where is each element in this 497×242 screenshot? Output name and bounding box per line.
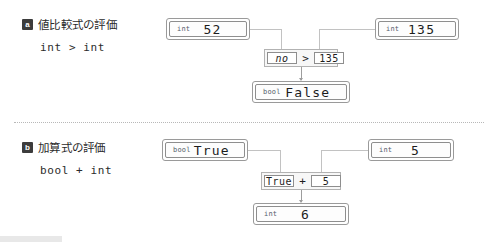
connector-a-right-vertical — [319, 29, 320, 49]
section-b-expression-left: True — [264, 175, 294, 187]
section-b-title: 加算式の評価 — [38, 139, 106, 155]
section-b-operand-right-type: int — [379, 146, 392, 154]
section-b-expression-right: 5 — [311, 175, 341, 187]
section-b-label: b 加算式の評価 bool + int — [22, 139, 112, 177]
section-b-expression-operator: + — [296, 175, 309, 187]
section-b-heading: b 加算式の評価 — [22, 139, 112, 155]
section-b-result-type: int — [264, 210, 277, 218]
section-a-operand-left: int 52 — [166, 18, 250, 40]
section-a-result-value: False — [281, 85, 339, 100]
section-b-badge: b — [22, 142, 33, 153]
section-a-result: bool False — [252, 81, 350, 103]
connector-a-right-horizontal — [319, 29, 375, 30]
diagram-canvas: a 値比較式の評価 int > int int 52 int 135 no > … — [0, 0, 497, 242]
connector-b-right-vertical — [321, 150, 322, 172]
connector-b-left-vertical — [280, 150, 281, 172]
connector-b-right-horizontal — [321, 150, 368, 151]
section-b-operand-right-inner: int 5 — [371, 142, 451, 158]
section-a-operand-right-type: int — [386, 25, 399, 33]
section-b-operand-left-type: bool — [173, 146, 191, 154]
section-a-title: 値比較式の評価 — [38, 16, 117, 32]
section-a-result-type: bool — [263, 88, 281, 96]
section-divider — [14, 122, 484, 123]
section-b-operand-left: bool True — [162, 139, 248, 161]
section-a-expression: no > 135 — [264, 49, 338, 67]
footer-bar — [0, 236, 62, 242]
section-b-code: bool + int — [40, 164, 112, 177]
connector-a-left-vertical — [281, 29, 282, 49]
section-b-operand-left-inner: bool True — [165, 142, 245, 158]
section-b-expression: True + 5 — [261, 172, 341, 190]
section-a-expression-left: no — [267, 52, 297, 64]
section-b-result: int 6 — [253, 203, 349, 225]
section-a-heading: a 値比較式の評価 — [22, 16, 117, 32]
connector-b-left-horizontal — [248, 150, 280, 151]
section-a-operand-left-type: int — [177, 25, 190, 33]
section-a-operand-right: int 135 — [375, 18, 459, 40]
section-b-result-inner: int 6 — [256, 206, 346, 222]
section-b-operand-right-value: 5 — [392, 143, 443, 158]
section-a-result-inner: bool False — [255, 84, 347, 100]
section-a-expression-right: 135 — [314, 52, 344, 64]
section-a-operand-right-inner: int 135 — [378, 21, 456, 37]
section-a-expression-operator: > — [299, 52, 312, 64]
section-a-code: int > int — [40, 41, 117, 54]
section-b-result-value: 6 — [277, 207, 338, 222]
section-a-operand-left-inner: int 52 — [169, 21, 247, 37]
section-b-operand-left-value: True — [191, 143, 237, 158]
section-b-operand-right: int 5 — [368, 139, 454, 161]
section-a-operand-right-value: 135 — [399, 22, 448, 37]
section-a-label: a 値比較式の評価 int > int — [22, 16, 117, 54]
section-a-badge: a — [22, 19, 33, 30]
section-a-operand-left-value: 52 — [190, 22, 239, 37]
connector-a-left-horizontal — [250, 29, 281, 30]
